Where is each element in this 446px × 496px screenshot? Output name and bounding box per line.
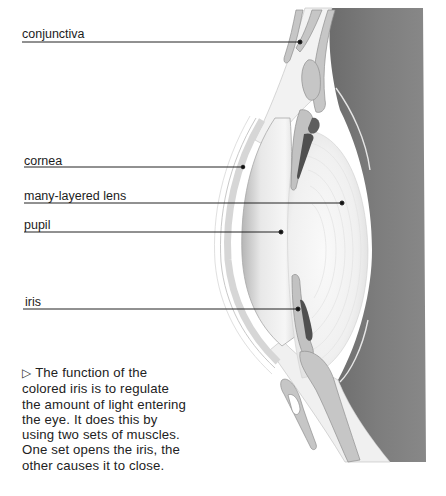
caption-line: other causes it to close. <box>22 458 222 473</box>
leader-dot-lens <box>340 201 344 205</box>
caption-line: the amount of light entering <box>22 397 222 412</box>
label-cornea: cornea <box>24 154 62 168</box>
leader-dot-iris <box>296 307 300 311</box>
caption-line: the eye. It does this by <box>22 412 222 427</box>
caption-paragraph: ▷The function of the colored iris is to … <box>22 365 222 473</box>
leader-dot-pupil <box>279 230 283 234</box>
label-conjunctiva: conjunctiva <box>22 27 85 41</box>
caption-line: colored iris is to regulate <box>22 381 222 396</box>
caption-line: One set opens the iris, the <box>22 442 222 457</box>
label-iris: iris <box>25 295 41 309</box>
caption-line: ▷The function of the <box>22 365 222 381</box>
triangle-marker-icon: ▷ <box>22 366 31 380</box>
leader-dot-conjunctiva <box>298 40 302 44</box>
label-pupil: pupil <box>24 218 50 232</box>
leader-dot-cornea <box>241 165 245 169</box>
label-many-layered-lens: many-layered lens <box>24 189 126 203</box>
caption-line: using two sets of muscles. <box>22 427 222 442</box>
